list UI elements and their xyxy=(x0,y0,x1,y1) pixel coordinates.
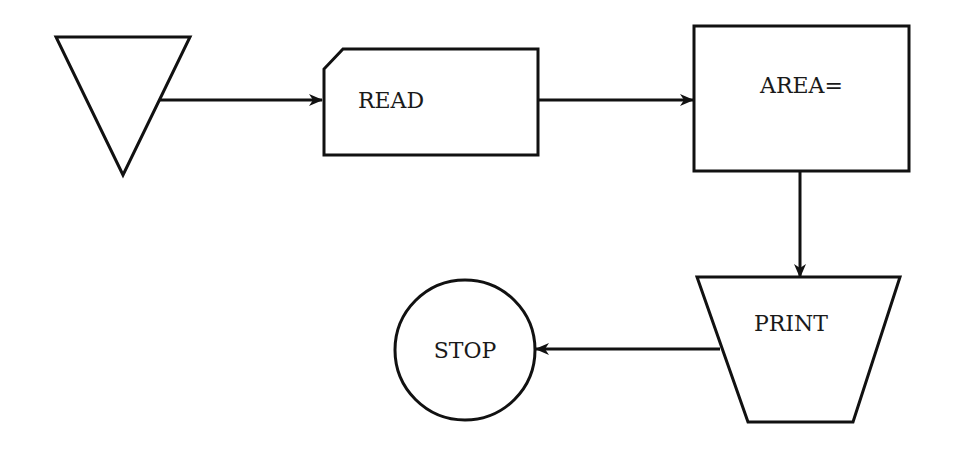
read-label: READ xyxy=(358,88,424,113)
read-node: READ xyxy=(324,49,538,155)
stop-node: STOP xyxy=(395,280,535,420)
stop-label: STOP xyxy=(434,338,497,363)
area-label: AREA= xyxy=(759,73,843,98)
area-node: AREA= xyxy=(694,26,909,171)
punched-card-icon xyxy=(324,49,538,155)
print-node: PRINT xyxy=(697,277,900,422)
print-label: PRINT xyxy=(754,311,828,336)
trapezoid-icon xyxy=(697,277,900,422)
flowchart: READ AREA= PRINT STOP xyxy=(0,0,962,460)
start-node xyxy=(56,37,190,175)
process-rectangle-icon xyxy=(694,26,909,171)
inverted-triangle-icon xyxy=(56,37,190,175)
